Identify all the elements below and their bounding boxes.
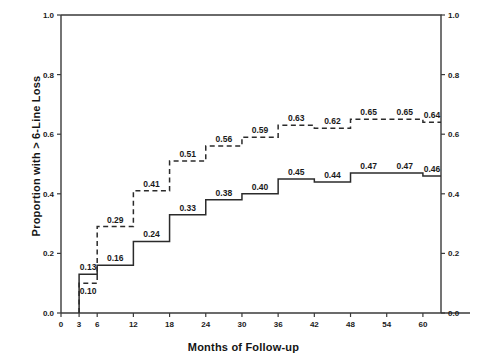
y-tick-label-right: 0.2 bbox=[448, 249, 460, 258]
data-point-label: 0.16 bbox=[107, 253, 124, 263]
y-tick-label-left: 0.0 bbox=[43, 309, 55, 318]
x-tick-label: 48 bbox=[346, 320, 355, 329]
data-point-label: 0.44 bbox=[324, 170, 341, 180]
y-tick-label-left: 0.6 bbox=[43, 130, 55, 139]
plot-frame bbox=[61, 15, 441, 313]
y-tick-label-left: 1.0 bbox=[43, 11, 55, 20]
x-axis-title: Months of Follow-up bbox=[0, 341, 487, 353]
y-tick-label-left: 0.8 bbox=[43, 71, 55, 80]
x-tick-label: 42 bbox=[310, 320, 319, 329]
y-tick-label-right: 1.0 bbox=[448, 11, 460, 20]
data-point-label: 0.33 bbox=[179, 203, 196, 213]
x-tick-label: 18 bbox=[165, 320, 174, 329]
data-point-label: 0.63 bbox=[288, 113, 305, 123]
data-point-label: 0.38 bbox=[216, 188, 233, 198]
data-point-label: 0.64 bbox=[424, 110, 441, 120]
x-tick-label: 6 bbox=[95, 320, 100, 329]
data-point-label: 0.51 bbox=[179, 149, 196, 159]
data-point-label: 0.47 bbox=[360, 161, 377, 171]
x-tick-label: 60 bbox=[418, 320, 427, 329]
data-point-label: 0.29 bbox=[107, 215, 124, 225]
data-point-label: 0.40 bbox=[252, 182, 269, 192]
x-tick-label: 36 bbox=[274, 320, 283, 329]
x-tick-label: 12 bbox=[129, 320, 138, 329]
data-point-label: 0.59 bbox=[252, 125, 269, 135]
data-point-label: 0.65 bbox=[397, 107, 414, 117]
chart-canvas: 0361218243036424854600.00.00.20.20.40.40… bbox=[0, 0, 487, 364]
chart-figure: Proportion with > 6-Line Loss Months of … bbox=[0, 0, 487, 364]
data-point-label: 0.24 bbox=[143, 229, 160, 239]
data-point-label: 0.41 bbox=[143, 179, 160, 189]
y-tick-label-left: 0.4 bbox=[43, 190, 55, 199]
y-tick-label-right: 0.0 bbox=[448, 309, 460, 318]
y-tick-label-right: 0.8 bbox=[448, 71, 460, 80]
y-tick-label-right: 0.4 bbox=[448, 190, 460, 199]
data-point-label: 0.65 bbox=[360, 107, 377, 117]
data-point-label: 0.45 bbox=[288, 167, 305, 177]
dashed-curve bbox=[79, 119, 441, 313]
x-tick-label: 24 bbox=[201, 320, 210, 329]
y-tick-label-left: 0.2 bbox=[43, 249, 55, 258]
data-point-label: 0.46 bbox=[424, 164, 441, 174]
data-point-label: 0.56 bbox=[216, 134, 233, 144]
data-point-label: 0.47 bbox=[397, 161, 414, 171]
x-tick-label: 0 bbox=[59, 320, 64, 329]
data-point-label: 0.10 bbox=[80, 286, 97, 296]
data-point-label: 0.62 bbox=[324, 116, 341, 126]
x-tick-label: 30 bbox=[237, 320, 246, 329]
series-group bbox=[79, 119, 441, 313]
data-point-label: 0.13 bbox=[80, 262, 97, 272]
y-axis-title: Proportion with > 6-Line Loss bbox=[30, 36, 42, 276]
y-tick-label-right: 0.6 bbox=[448, 130, 460, 139]
x-tick-label: 3 bbox=[77, 320, 82, 329]
x-tick-label: 54 bbox=[382, 320, 391, 329]
